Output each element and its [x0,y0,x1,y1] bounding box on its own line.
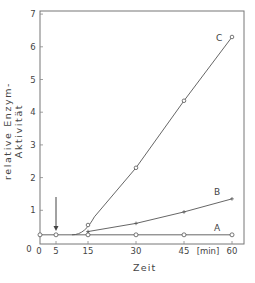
series-c-marker [134,166,138,170]
x-axis-label: Zeit [133,262,157,273]
x-tick-label: 0 [36,246,41,256]
y-tick-label: 2 [30,173,35,183]
y-tick-label: 0 [26,244,31,254]
x-tick-label: 45 [179,246,190,256]
y-tick-label: 7 [30,9,35,19]
x-tick-label: 60 [227,246,238,256]
series-a-marker [182,233,186,237]
series-c-marker [230,35,234,39]
series-b-marker [134,222,138,226]
series-c-marker [182,99,186,103]
y-tick-label: 5 [30,75,35,85]
series-b-marker [182,210,186,214]
y-tick-label: 6 [30,42,35,52]
series-a-marker [38,233,42,237]
y-tick-label: 3 [30,140,35,150]
y-axis-label: relative Enzym- Aktivität [2,66,24,196]
series-b-line [88,199,232,235]
series-a-marker [230,233,234,237]
series-b-label: B [214,187,220,197]
series-a-marker [86,233,90,237]
y-tick-label: 4 [30,107,35,117]
series-c-marker [86,223,90,227]
plot-area [40,11,244,244]
axis-ticks: 012345670515304560[min] [26,9,237,256]
x-tick-label: 5 [53,246,58,256]
series-a-marker [54,233,58,237]
arrow-down-icon [54,226,59,231]
plot-frame [40,11,244,244]
series-a-label: A [214,223,221,233]
y-tick-label: 1 [30,205,35,215]
series-c-label: C [216,33,222,43]
data-series [38,35,234,237]
x-tick-label: 30 [131,246,142,256]
series-a-marker [134,233,138,237]
x-unit-label: [min] [197,246,220,256]
line-chart: 012345670515304560[min] CBA [0,0,255,283]
series-b-marker [230,197,234,201]
x-tick-label: 15 [83,246,94,256]
